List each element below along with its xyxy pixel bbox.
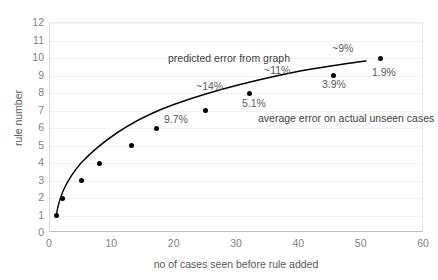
data-point	[154, 126, 159, 131]
chart-container: 12 11 10 9 8 7 6 5 4 3 2 1 0 0 10 20 30 …	[0, 0, 438, 280]
annotation-predicted-14: ~14%	[196, 80, 223, 92]
y-tick-label: 3	[20, 175, 44, 186]
y-tick-label: 12	[20, 17, 44, 28]
annotation-predicted-9: ~9%	[332, 42, 353, 54]
y-tick-label: 11	[20, 35, 44, 46]
y-tick-label: 0	[20, 227, 44, 238]
annotation-predicted-11: ~11%	[264, 64, 290, 76]
annotation-actual-19: 1.9%	[372, 66, 396, 78]
y-tick-label: 1	[20, 210, 44, 221]
y-tick-label: 2	[20, 192, 44, 203]
annotation-actual-51: 5.1%	[242, 97, 266, 109]
x-tick-label: 60	[417, 237, 429, 249]
data-point	[79, 178, 84, 183]
data-point	[378, 56, 383, 61]
x-tick-label: 20	[161, 237, 187, 249]
data-point	[97, 161, 102, 166]
annotation-predicted-error-note: predicted error from graph	[168, 52, 290, 64]
x-tick-label: 50	[348, 237, 374, 249]
data-point	[54, 213, 59, 218]
x-axis-title: no of cases seen before rule added	[49, 258, 423, 270]
data-point	[60, 196, 65, 201]
y-tick-label: 4	[20, 157, 44, 168]
annotation-actual-97: 9.7%	[164, 113, 188, 125]
annotation-actual-39: 3.9%	[322, 78, 346, 90]
y-axis-title: rule number	[12, 78, 24, 158]
y-tick-label: 10	[20, 52, 44, 63]
x-tick-label: 10	[98, 237, 124, 249]
x-tick-label: 40	[285, 237, 311, 249]
data-point	[247, 91, 252, 96]
x-tick-label: 0	[36, 237, 62, 249]
x-tick-label: 30	[223, 237, 249, 249]
annotation-actual-error-note: average error on actual unseen cases	[258, 112, 434, 124]
data-point	[129, 143, 134, 148]
